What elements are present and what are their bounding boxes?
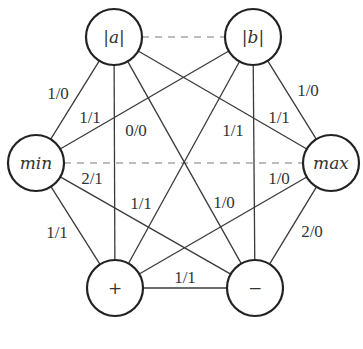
edge-a-plus — [114, 65, 115, 260]
node-min: min — [8, 135, 64, 191]
edge-label-max-plus: 1/0 — [268, 169, 290, 188]
node-label-minus: − — [248, 278, 262, 298]
edge-labels: 1/01/10/01/11/11/02/11/11/01/01/12/01/1 — [46, 81, 323, 287]
edge-b-max — [268, 61, 317, 139]
edge-label-b-max: 1/0 — [297, 81, 319, 100]
node-label-plus: + — [108, 278, 122, 298]
edge-label-b-plus: 1/1 — [130, 194, 152, 213]
node-label-min: min — [20, 153, 53, 173]
node-b: |b| — [225, 9, 281, 65]
node-label-max: max — [313, 153, 349, 173]
edge-label-max-minus: 2/0 — [301, 222, 323, 241]
edge-label-b-minus: 1/1 — [222, 121, 244, 140]
edge-label-a-plus: 0/0 — [125, 121, 147, 140]
edge-label-b-min: 1/1 — [79, 108, 101, 127]
node-minus: − — [227, 260, 283, 316]
graph-diagram: 1/01/10/01/11/11/02/11/11/01/01/12/01/1 … — [0, 0, 363, 349]
edge-b-minus — [253, 65, 255, 260]
edge-min-minus — [60, 177, 230, 274]
node-label-b: |b| — [242, 27, 264, 47]
node-max: max — [303, 135, 359, 191]
edge-label-a-minus: 1/0 — [213, 193, 235, 212]
node-a: |a| — [86, 9, 142, 65]
node-plus: + — [87, 260, 143, 316]
edge-label-a-min: 1/0 — [47, 84, 69, 103]
edge-label-min-minus: 2/1 — [81, 169, 103, 188]
edge-label-min-plus: 1/1 — [46, 223, 68, 242]
edge-label-plus-minus: 1/1 — [174, 268, 196, 287]
node-label-a: |a| — [103, 27, 125, 47]
edge-label-a-max: 1/1 — [268, 108, 290, 127]
